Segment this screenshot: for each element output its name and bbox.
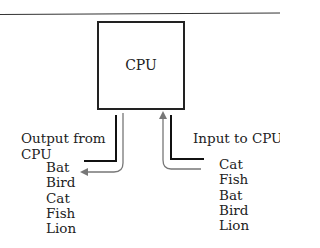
- list-item: Lion: [46, 221, 76, 236]
- list-item: Bird: [219, 203, 249, 218]
- input-label: Input to CPU: [193, 131, 280, 147]
- output-label: Output from CPU: [21, 131, 106, 162]
- list-item: Lion: [219, 218, 249, 233]
- list-item: Cat: [219, 157, 249, 172]
- list-item: Cat: [46, 191, 76, 206]
- list-item: Fish: [46, 206, 76, 221]
- output-list: Bat Bird Cat Fish Lion: [46, 160, 76, 236]
- list-item: Bat: [219, 188, 249, 203]
- input-list: Cat Fish Bat Bird Lion: [219, 157, 249, 233]
- list-item: Bird: [46, 175, 76, 190]
- list-item: Fish: [219, 172, 249, 187]
- list-item: Bat: [46, 160, 76, 175]
